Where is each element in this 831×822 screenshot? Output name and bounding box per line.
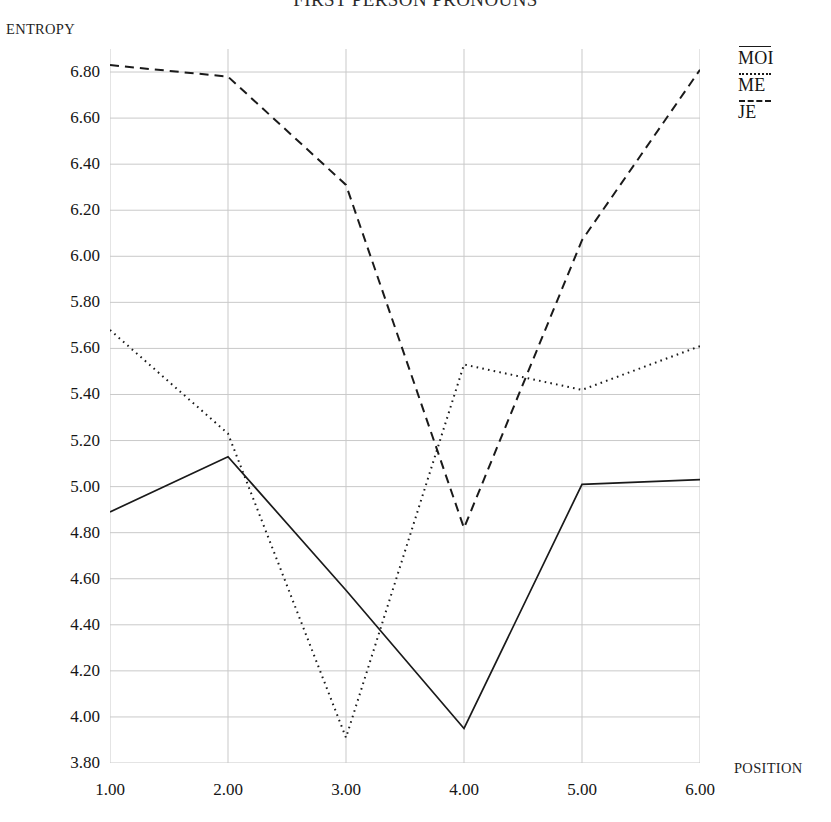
legend-label: MOI bbox=[738, 48, 774, 69]
y-tick-label: 6.00 bbox=[40, 246, 100, 266]
legend-label: ME bbox=[738, 75, 766, 96]
plot-area bbox=[110, 49, 700, 763]
y-tick-label: 4.80 bbox=[40, 523, 100, 543]
y-axis-title: ENTROPY bbox=[6, 21, 75, 38]
chart-title: FIRST PERSON PRONOUNS bbox=[0, 0, 831, 11]
chart-legend: MOIMEJE bbox=[738, 44, 826, 125]
x-tick-label: 3.00 bbox=[311, 780, 381, 800]
series-line-je bbox=[110, 65, 700, 528]
series-line-moi bbox=[110, 457, 700, 729]
legend-label: JE bbox=[738, 102, 757, 123]
legend-item-je[interactable]: JE bbox=[738, 98, 826, 124]
series-line-me bbox=[110, 330, 700, 738]
y-axis-tick-labels: 6.806.606.406.206.005.805.605.405.205.00… bbox=[28, 49, 100, 763]
x-axis-title: POSITION bbox=[734, 760, 802, 777]
y-tick-label: 6.80 bbox=[40, 62, 100, 82]
y-tick-label: 3.80 bbox=[40, 753, 100, 773]
y-tick-label: 4.00 bbox=[40, 707, 100, 727]
y-tick-label: 5.60 bbox=[40, 338, 100, 358]
y-tick-label: 4.60 bbox=[40, 569, 100, 589]
x-tick-label: 4.00 bbox=[429, 780, 499, 800]
y-tick-label: 5.00 bbox=[40, 477, 100, 497]
x-tick-label: 5.00 bbox=[547, 780, 617, 800]
x-axis-tick-labels: 1.002.003.004.005.006.00 bbox=[110, 780, 700, 806]
y-tick-label: 4.40 bbox=[40, 615, 100, 635]
y-tick-label: 5.40 bbox=[40, 384, 100, 404]
y-tick-label: 4.20 bbox=[40, 661, 100, 681]
x-tick-label: 2.00 bbox=[193, 780, 263, 800]
y-tick-label: 6.20 bbox=[40, 200, 100, 220]
y-tick-label: 5.20 bbox=[40, 431, 100, 451]
legend-item-moi[interactable]: MOI bbox=[738, 44, 826, 70]
legend-item-me[interactable]: ME bbox=[738, 71, 826, 97]
y-tick-label: 5.80 bbox=[40, 292, 100, 312]
x-tick-label: 1.00 bbox=[75, 780, 145, 800]
y-tick-label: 6.40 bbox=[40, 154, 100, 174]
y-tick-label: 6.60 bbox=[40, 108, 100, 128]
x-tick-label: 6.00 bbox=[665, 780, 735, 800]
legend-swatch-solid-line-icon bbox=[739, 46, 771, 47]
chart-root: FIRST PERSON PRONOUNS ENTROPY POSITION 6… bbox=[0, 0, 831, 822]
plot-canvas bbox=[110, 49, 700, 763]
